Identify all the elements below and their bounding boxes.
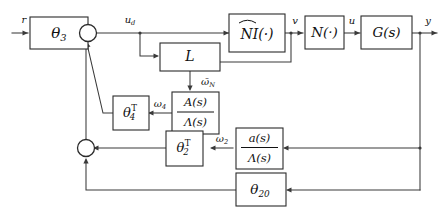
- arrowhead-v-to-n: [298, 30, 304, 35]
- arrowhead-u-to-g: [355, 30, 361, 35]
- arrowhead-y-output: [432, 30, 438, 35]
- block-n-nonlinearity-label: N(·): [310, 24, 338, 40]
- block-ni-hat[interactable]: NI(·): [229, 14, 285, 52]
- arrowhead-r-to-theta3: [23, 30, 29, 35]
- block-l-gain[interactable]: L: [160, 43, 220, 71]
- wire-group: [12, 30, 437, 192]
- block-plant-g[interactable]: G(s): [361, 16, 412, 49]
- signal-label-omega-bar-n: ω̄N: [201, 76, 215, 89]
- block-l-gain-label: L: [184, 48, 194, 64]
- block-plant-g-label: G(s): [372, 24, 400, 40]
- arrowhead-theta20-to-sumbottom: [83, 158, 88, 164]
- tap-y-branch: [418, 31, 421, 34]
- signal-label-y: y: [424, 15, 431, 26]
- block-a-big-filter[interactable]: A(s) Λ(s): [172, 92, 219, 134]
- block-n-nonlinearity[interactable]: N(·): [305, 16, 344, 49]
- summing-junction-bottom[interactable]: [78, 140, 95, 157]
- block-theta4-transpose-label: θ4T: [123, 103, 137, 122]
- block-diagram-figure: θ3 NI(·) N(·) G(s) L A(s) Λ(s): [0, 0, 443, 216]
- tap-ud-branch: [138, 31, 141, 34]
- block-a-big-denominator: Λ(s): [183, 115, 207, 129]
- signal-label-r: r: [22, 14, 28, 25]
- block-a-small-numerator: a(s): [249, 131, 271, 145]
- wire-theta4-to-sum-diagonal: [87, 44, 113, 113]
- block-a-small-filter[interactable]: a(s) Λ(s): [236, 128, 283, 169]
- diagram-canvas: θ3 NI(·) N(·) G(s) L A(s) Λ(s): [0, 0, 443, 216]
- arrowhead-ud-to-L: [154, 53, 160, 58]
- arrowhead-ud-to-nihat: [224, 30, 230, 35]
- tap-y-to-asmall: [418, 146, 421, 149]
- signal-label-omega-4: ω4: [154, 98, 166, 111]
- signal-label-v: v: [292, 15, 298, 26]
- arrowhead-L-to-abig: [187, 86, 192, 92]
- block-a-small-denominator: Λ(s): [247, 151, 271, 165]
- block-a-big-numerator: A(s): [183, 95, 207, 109]
- wire-theta20-to-sumbottom: [86, 160, 236, 190]
- signal-label-u: u: [349, 15, 355, 26]
- signal-label-omega-2: ω2: [216, 133, 228, 146]
- block-theta2-transpose-label: θ2T: [176, 138, 190, 157]
- arrowhead-asmall-to-theta2: [210, 145, 216, 150]
- block-theta4-transpose[interactable]: θ4T: [113, 96, 149, 130]
- block-ni-hat-label: NI(·): [239, 26, 273, 42]
- summing-junction-bottom-circle[interactable]: [78, 140, 95, 157]
- arrowhead-y-to-asmall: [283, 145, 289, 150]
- wire-ud-branch-to-L: [140, 33, 157, 56]
- summing-junction-top-circle[interactable]: [80, 25, 97, 42]
- arrowhead-y-to-theta20: [286, 187, 292, 192]
- summing-junction-top[interactable]: [80, 25, 97, 42]
- tap-v-branch: [289, 31, 292, 34]
- block-theta2-transpose[interactable]: θ2T: [166, 131, 203, 166]
- signal-label-ud: ud: [125, 14, 136, 27]
- block-theta20[interactable]: θ20: [236, 173, 286, 206]
